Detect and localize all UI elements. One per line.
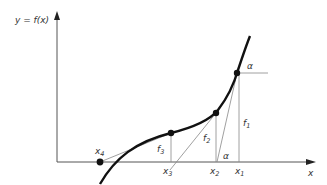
x1-label: x1: [234, 166, 244, 178]
f3-label: f3: [157, 144, 164, 156]
newton-method-diagram: y = f(x) x α α x1 x2 x3 x4 f1 f2 f3: [0, 0, 327, 185]
x3-label: x3: [162, 166, 172, 178]
point-x4: [97, 159, 104, 166]
x-axis-arrow-icon: [306, 159, 316, 165]
iteration-points: [97, 70, 241, 166]
axes: [54, 11, 316, 165]
x4-label: x4: [94, 146, 104, 158]
angle-label-bottom: α: [223, 151, 229, 161]
x2-label: x2: [209, 166, 219, 178]
x-axis-label: x: [307, 168, 314, 178]
f2-label: f2: [203, 133, 210, 145]
tangent-1: [217, 73, 237, 162]
point-p1: [234, 70, 240, 76]
y-axis-arrow-icon: [54, 11, 60, 20]
angle-label-top: α: [247, 61, 253, 71]
point-p2: [213, 110, 219, 116]
y-axis-label: y = f(x): [14, 15, 49, 25]
labels: y = f(x) x α α x1 x2 x3 x4 f1 f2 f3: [14, 15, 314, 178]
point-p3: [168, 130, 174, 136]
f1-label: f1: [243, 118, 250, 130]
